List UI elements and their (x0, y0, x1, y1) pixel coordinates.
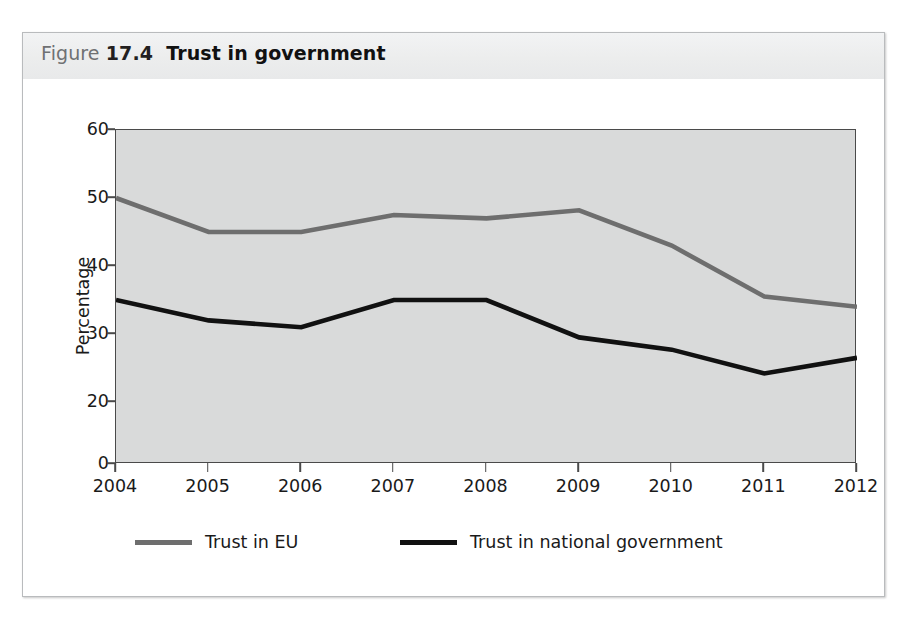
x-axis-tick-label: 2010 (631, 476, 711, 496)
x-axis-tick-label: 2008 (446, 476, 526, 496)
plot-area (115, 129, 856, 463)
legend-label: Trust in national government (470, 532, 723, 552)
y-axis-tick-mark (107, 196, 115, 198)
x-axis-tick-mark (207, 463, 209, 472)
x-axis-tick-label: 2012 (816, 476, 896, 496)
legend-color-swatch (135, 540, 192, 545)
figure-label-word: Figure (41, 42, 100, 64)
series-line (116, 300, 857, 373)
x-axis-tick-label: 2006 (260, 476, 340, 496)
x-axis-ticks: 200420052006200720082009201020112012 (115, 463, 856, 503)
y-axis-tick-mark (107, 400, 115, 402)
x-axis-tick-mark (485, 463, 487, 472)
x-axis-tick-mark (299, 463, 301, 472)
figure-caption: Figure 17.4 Trust in government (41, 42, 386, 64)
legend-item[interactable]: Trust in EU (135, 527, 298, 557)
chart-legend: Trust in EUTrust in national government (115, 527, 856, 557)
figure-title-band: Figure 17.4 Trust in government (23, 33, 884, 80)
x-axis-tick-mark (670, 463, 672, 472)
legend-item[interactable]: Trust in national government (400, 527, 723, 557)
x-axis-tick-label: 2004 (75, 476, 155, 496)
x-axis-tick-label: 2009 (538, 476, 618, 496)
x-axis-tick-mark (577, 463, 579, 472)
x-axis-tick-mark (855, 463, 857, 472)
legend-label: Trust in EU (205, 532, 298, 552)
x-axis-tick-mark (763, 463, 765, 472)
x-axis-tick-label: 2005 (168, 476, 248, 496)
line-chart-svg (116, 130, 857, 464)
series-line (116, 198, 857, 307)
legend-color-swatch (400, 540, 457, 545)
y-axis-tick-mark (107, 128, 115, 130)
x-axis-tick-label: 2007 (353, 476, 433, 496)
y-axis-tick-mark (107, 332, 115, 334)
chart-area: Percentage 02030405060 20042005200620072… (23, 79, 884, 598)
x-axis-tick-label: 2011 (723, 476, 803, 496)
x-axis-tick-mark (392, 463, 394, 472)
y-axis-tick-marks (23, 129, 115, 463)
figure-number: 17.4 (106, 42, 153, 64)
figure-title: Trust in government (166, 42, 385, 64)
x-axis-tick-mark (114, 463, 116, 472)
figure-frame: Figure 17.4 Trust in government Percenta… (22, 32, 885, 597)
y-axis-tick-mark (107, 264, 115, 266)
